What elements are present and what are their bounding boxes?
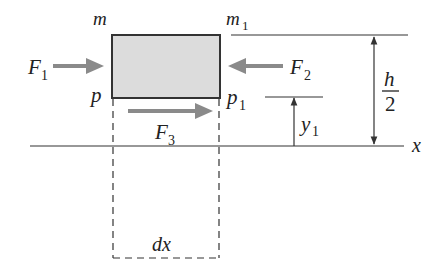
label-p1: p 1	[225, 85, 246, 113]
svg-text:1: 1	[41, 68, 48, 83]
svg-text:p: p	[225, 85, 238, 109]
svg-text:y: y	[299, 112, 311, 136]
label-x-axis: x	[411, 134, 421, 156]
label-f3: F 3	[154, 120, 175, 148]
beam-element-diagram: m m 1 F 1 F 2 p p 1 F 3 y 1 h 2	[0, 0, 448, 277]
label-y1: y 1	[299, 112, 319, 139]
label-m: m	[93, 8, 107, 29]
force-arrow-f2	[228, 58, 283, 74]
svg-text:1: 1	[312, 124, 319, 139]
svg-text:2: 2	[304, 68, 311, 83]
force-arrow-f3	[128, 103, 213, 119]
svg-text:h: h	[384, 67, 395, 91]
label-f2: F 2	[289, 55, 311, 83]
label-dx: dx	[152, 233, 171, 255]
label-p: p	[89, 83, 102, 107]
svg-text:2: 2	[385, 92, 396, 116]
force-arrow-f1	[53, 58, 104, 74]
svg-text:F: F	[27, 55, 41, 79]
svg-text:3: 3	[168, 133, 175, 148]
label-m1: m 1	[226, 8, 249, 33]
label-f1: F 1	[27, 55, 48, 83]
svg-text:F: F	[289, 55, 303, 79]
beam-element-block	[112, 35, 220, 98]
svg-text:m: m	[226, 8, 240, 29]
svg-text:1: 1	[242, 18, 249, 33]
svg-text:F: F	[154, 120, 168, 144]
label-h-over-2: h 2	[382, 67, 399, 116]
svg-text:1: 1	[239, 98, 246, 113]
